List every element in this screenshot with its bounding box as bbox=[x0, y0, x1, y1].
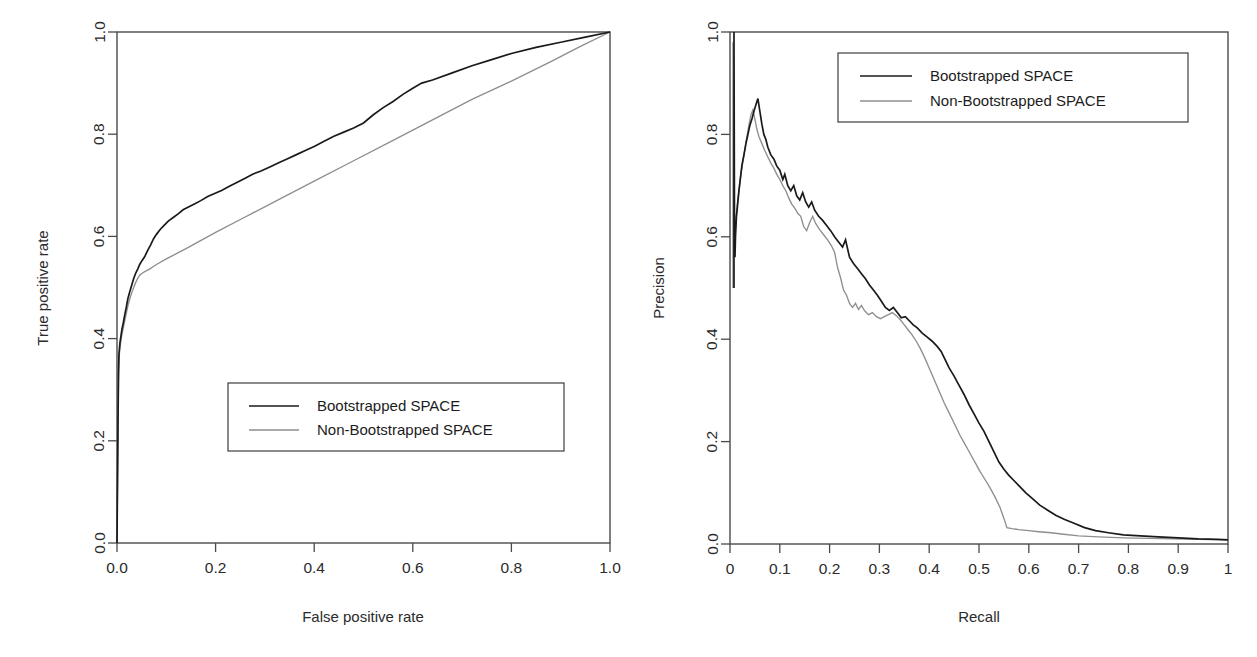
x-tick-label: 0.5 bbox=[968, 560, 990, 577]
x-tick-label: 0.4 bbox=[918, 560, 940, 577]
pr-legend: Bootstrapped SPACE Non-Bootstrapped SPAC… bbox=[838, 53, 1188, 122]
y-tick-label: 1.0 bbox=[91, 21, 108, 43]
roc-legend-box bbox=[228, 383, 564, 451]
precision-recall-panel: 0.00.20.40.60.81.0 00.10.20.30.40.50.60.… bbox=[628, 0, 1257, 657]
figure-root: 0.00.20.40.60.81.0 0.00.20.40.60.81.0 Fa… bbox=[0, 0, 1257, 657]
y-tick-label: 0.6 bbox=[704, 226, 721, 248]
pr-y-axis-title: Precision bbox=[650, 257, 667, 319]
roc-y-axis-title: True positive rate bbox=[34, 230, 51, 345]
y-tick-label: 1.0 bbox=[704, 21, 721, 43]
x-tick-label: 0.4 bbox=[303, 559, 325, 576]
y-tick-label: 0.8 bbox=[704, 124, 721, 146]
pr-legend-label-non-bootstrapped: Non-Bootstrapped SPACE bbox=[930, 92, 1106, 109]
x-tick-label: 0.8 bbox=[501, 559, 523, 576]
roc-series-non-bootstrapped bbox=[117, 32, 610, 543]
y-tick-label: 0.8 bbox=[91, 123, 108, 145]
roc-plot-frame bbox=[117, 32, 610, 543]
pr-svg: 0.00.20.40.60.81.0 00.10.20.30.40.50.60.… bbox=[628, 0, 1257, 657]
roc-svg: 0.00.20.40.60.81.0 0.00.20.40.60.81.0 Fa… bbox=[0, 0, 628, 657]
x-tick-label: 0.6 bbox=[1018, 560, 1040, 577]
roc-legend-label-bootstrapped: Bootstrapped SPACE bbox=[317, 397, 460, 414]
y-tick-label: 0.4 bbox=[91, 327, 108, 349]
x-tick-label: 0.9 bbox=[1167, 560, 1189, 577]
y-tick-label: 0.2 bbox=[704, 431, 721, 453]
pr-legend-label-bootstrapped: Bootstrapped SPACE bbox=[930, 67, 1073, 84]
roc-x-axis-ticks: 0.00.20.40.60.81.0 bbox=[106, 543, 621, 576]
pr-y-axis-ticks: 0.00.20.40.60.81.0 bbox=[704, 21, 731, 555]
x-tick-label: 0.2 bbox=[205, 559, 227, 576]
x-tick-label: 1 bbox=[1224, 560, 1233, 577]
pr-x-axis-ticks: 00.10.20.30.40.50.60.70.80.91 bbox=[726, 544, 1233, 577]
x-tick-label: 0 bbox=[726, 560, 735, 577]
x-tick-label: 1.0 bbox=[599, 559, 621, 576]
roc-series-bootstrapped bbox=[117, 32, 610, 543]
y-tick-label: 0.2 bbox=[91, 430, 108, 452]
roc-y-axis-ticks: 0.00.20.40.60.81.0 bbox=[91, 21, 118, 554]
roc-panel: 0.00.20.40.60.81.0 0.00.20.40.60.81.0 Fa… bbox=[0, 0, 628, 657]
y-tick-label: 0.0 bbox=[91, 532, 108, 554]
x-tick-label: 0.8 bbox=[1118, 560, 1140, 577]
roc-x-axis-title: False positive rate bbox=[302, 608, 424, 625]
roc-legend-label-non-bootstrapped: Non-Bootstrapped SPACE bbox=[317, 421, 493, 438]
x-tick-label: 0.6 bbox=[402, 559, 424, 576]
roc-legend: Bootstrapped SPACE Non-Bootstrapped SPAC… bbox=[228, 383, 564, 451]
y-tick-label: 0.0 bbox=[704, 533, 721, 555]
x-tick-label: 0.7 bbox=[1068, 560, 1090, 577]
pr-legend-box bbox=[838, 53, 1188, 122]
x-tick-label: 0.1 bbox=[769, 560, 791, 577]
y-tick-label: 0.4 bbox=[704, 328, 721, 350]
x-tick-label: 0.0 bbox=[106, 559, 128, 576]
y-tick-label: 0.6 bbox=[91, 226, 108, 248]
pr-x-axis-title: Recall bbox=[958, 608, 1000, 625]
x-tick-label: 0.2 bbox=[819, 560, 841, 577]
x-tick-label: 0.3 bbox=[869, 560, 891, 577]
